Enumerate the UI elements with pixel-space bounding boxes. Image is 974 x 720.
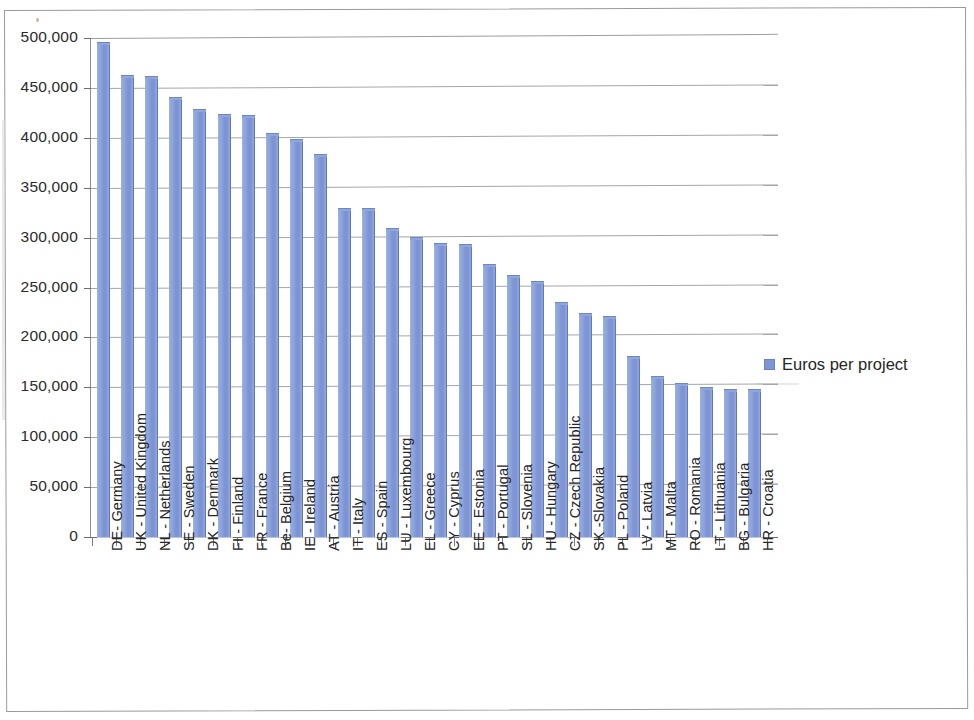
- y-axis-tick-mark: [84, 238, 91, 239]
- x-axis-category-label: CZ - Czech Republic: [567, 415, 583, 551]
- x-axis-category-label: DK - Denmark: [205, 458, 221, 551]
- x-axis-category-label: LT - Lithuania: [712, 462, 728, 551]
- x-axis-category-label: NL - Netherlands: [157, 440, 173, 551]
- y-axis-tick-mark: [84, 387, 91, 388]
- y-axis-tick-mark: [84, 88, 91, 89]
- x-axis-category-label: PT - Portugal: [495, 465, 511, 551]
- x-axis-category-label: FI - Finland: [230, 476, 246, 551]
- x-axis-category-label: HU - Hungary: [543, 461, 559, 551]
- y-axis-tick-mark: [84, 437, 91, 438]
- legend-entry-label: Euros per project: [782, 355, 908, 374]
- x-axis-category-label: BG - Bulgaria: [736, 463, 752, 551]
- y-axis-tick-mark: [84, 288, 91, 289]
- chart-legend: Euros per project: [764, 355, 908, 374]
- x-axis-category-label: UK - United Kingdom: [133, 413, 149, 551]
- x-axis-category-label: Be- Belgium: [278, 471, 294, 551]
- chart-screenshot: 500,000450,000400,000350,000300,000250,0…: [0, 0, 974, 720]
- x-axis-category-label: EL - Greece: [422, 472, 438, 551]
- x-axis-category-label: IE - Ireland: [302, 479, 318, 551]
- chart-canvas: 500,000450,000400,000350,000300,000250,0…: [0, 0, 974, 720]
- y-axis-tick-mark: [84, 537, 91, 538]
- x-axis-category-label: DE- Germany: [109, 461, 125, 551]
- x-axis-category-label: EE - Estonia: [471, 469, 487, 551]
- y-axis-tick-mark: [84, 337, 91, 338]
- x-axis-category-label: SE - Sweden: [181, 465, 197, 551]
- x-axis-category-label: ES - Spain: [374, 481, 390, 551]
- x-axis-category-label: HR - Croatia: [760, 469, 776, 551]
- x-axis-category-label: FR - France: [254, 473, 270, 551]
- x-axis-category-label: LV - Latvia: [639, 482, 655, 551]
- x-axis-category-label: SK -Slovakia: [591, 467, 607, 551]
- x-axis-category-label: LU - Luxembourg: [398, 437, 414, 551]
- x-axis-category-label: CY - Cyprus: [446, 471, 462, 551]
- x-axis-category-label: AT - Austria: [326, 475, 342, 551]
- x-axis-category-label: IT - Italy: [350, 498, 366, 551]
- x-axis-category-label: PL - Poland: [615, 475, 631, 551]
- x-axis-category-label: MT - Malta: [663, 481, 679, 551]
- y-axis-tick-mark: [84, 38, 91, 39]
- y-axis-tick-mark: [84, 188, 91, 189]
- legend-swatch-icon: [764, 359, 775, 370]
- x-axis-category-label: SL - Slovenia: [519, 464, 535, 551]
- y-axis-tick-mark: [84, 487, 91, 488]
- x-axis-category-label: RO - Romania: [687, 457, 703, 551]
- y-axis-tick-mark: [84, 138, 91, 139]
